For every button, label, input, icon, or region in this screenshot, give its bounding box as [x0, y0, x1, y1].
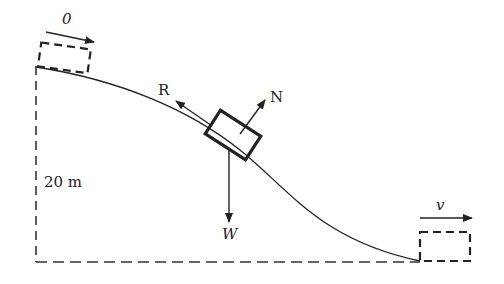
final-speed-label: v	[436, 196, 445, 214]
initial-velocity-arrow	[46, 32, 94, 42]
friction-arrow	[176, 101, 212, 126]
final-block-outline	[420, 232, 470, 261]
initial-speed-label: 0	[62, 10, 72, 28]
normal-force-label: N	[270, 88, 283, 106]
weight-label: W	[222, 225, 239, 243]
height-label: 20 m	[44, 173, 82, 191]
normal-force-arrow	[240, 100, 265, 134]
friction-label: R	[158, 81, 170, 99]
slope-diagram: 0 R N W 20 m v	[0, 0, 504, 284]
